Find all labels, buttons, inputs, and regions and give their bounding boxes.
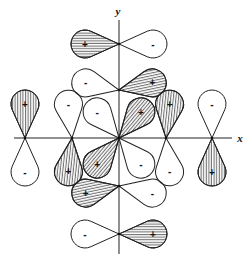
plus-sign: +: [22, 99, 28, 110]
lobe-center-diagonal-negative: [77, 92, 129, 147]
lobe-left-positive: [11, 90, 39, 138]
plus-sign: +: [82, 39, 88, 50]
nodal-point: [211, 137, 214, 140]
plus-sign: +: [65, 166, 71, 177]
lobe-top-negative: [119, 30, 167, 58]
nodal-point: [24, 137, 27, 140]
lobe-left-negative: [11, 138, 39, 186]
minus-sign: -: [23, 167, 26, 178]
minus-sign: -: [84, 77, 87, 88]
nodal-point: [118, 89, 121, 92]
nodal-point: [118, 185, 121, 188]
plus-sign: +: [167, 99, 173, 110]
plus-sign: +: [209, 167, 215, 178]
lobe-bottom-negative: [71, 220, 119, 248]
orbital-diagram: x y +--++--+-++--++--++-: [0, 0, 251, 264]
minus-sign: -: [95, 107, 98, 118]
lobe-top-positive: [71, 30, 119, 58]
nodal-point: [118, 233, 121, 236]
lobe-right-negative: [198, 90, 226, 138]
minus-sign: -: [151, 188, 154, 199]
nodal-point: [71, 137, 74, 140]
minus-sign: -: [139, 159, 142, 170]
nodal-point: [118, 43, 121, 46]
minus-sign: -: [83, 229, 86, 240]
minus-sign: -: [151, 39, 154, 50]
plus-sign: +: [149, 77, 155, 88]
plus-sign: +: [150, 229, 156, 240]
y-axis-label: y: [114, 5, 121, 17]
minus-sign: -: [67, 99, 70, 110]
minus-sign: -: [168, 166, 171, 177]
nodal-point: [118, 137, 121, 140]
x-axis-label: x: [236, 132, 243, 144]
minus-sign: -: [210, 99, 213, 110]
lobe-bottom-positive: [119, 220, 167, 248]
lobe-center-diagonal-negative: [108, 129, 160, 184]
plus-sign: +: [83, 188, 89, 199]
plus-sign: +: [94, 159, 100, 170]
nodal-point: [165, 137, 168, 140]
lobe-right-positive: [198, 138, 226, 186]
plus-sign: +: [138, 107, 144, 118]
